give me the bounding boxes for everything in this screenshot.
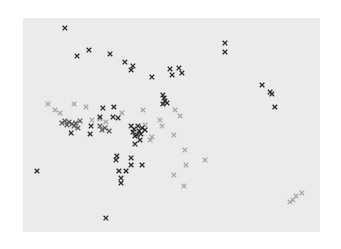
scatter-chart [0,0,341,249]
